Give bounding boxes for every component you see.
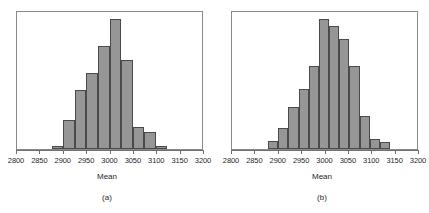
x-axis-tick [395, 150, 396, 154]
x-axis-tick [203, 150, 204, 154]
x-tick-label: 2850 [246, 156, 262, 166]
histogram-bar [63, 120, 75, 149]
x-tick-label: 2800 [223, 156, 239, 166]
histogram-bar [299, 89, 309, 149]
panel-caption-a: (a) [0, 193, 214, 203]
x-axis-tick [180, 150, 181, 154]
figure-two-histograms: 280028502900295030003050310031503200 Mea… [0, 0, 429, 213]
x-tick-label: 3000 [101, 156, 117, 166]
x-tick-label: 3200 [195, 156, 211, 166]
x-axis-tick [156, 150, 157, 154]
x-tick-label: 2900 [55, 156, 71, 166]
x-tick-label: 3050 [340, 156, 356, 166]
x-axis-tick [371, 150, 372, 154]
panel-a: 280028502900295030003050310031503200 Mea… [0, 0, 214, 213]
histogram-bar [309, 66, 319, 150]
x-tick-label: 3050 [125, 156, 141, 166]
x-axis-title-a: Mean [0, 172, 214, 182]
histogram-bars-a [17, 12, 202, 149]
histogram-bar [319, 19, 329, 149]
histogram-bars-b [232, 12, 417, 149]
x-axis-tick [278, 150, 279, 154]
histogram-bar [144, 132, 156, 149]
x-tick-label: 2950 [293, 156, 309, 166]
x-axis-tick [325, 150, 326, 154]
histogram-bar [288, 107, 298, 149]
histogram-bar [98, 46, 110, 149]
x-tick-label: 3000 [316, 156, 332, 166]
x-axis-tick [133, 150, 134, 154]
x-tick-label: 2800 [8, 156, 24, 166]
histogram-bar [133, 127, 145, 149]
x-axis-tick [39, 150, 40, 154]
x-tick-label: 3200 [410, 156, 426, 166]
histogram-bar [339, 39, 349, 149]
histogram-bar [329, 26, 339, 149]
x-axis-b [231, 150, 418, 151]
x-tick-labels-b: 280028502900295030003050310031503200 [215, 156, 429, 168]
x-axis-tick [348, 150, 349, 154]
histogram-bar [349, 66, 359, 150]
x-tick-label: 3150 [386, 156, 402, 166]
histogram-bar [86, 73, 98, 149]
x-axis-tick [86, 150, 87, 154]
x-axis-a [16, 150, 203, 151]
histogram-bar [110, 19, 122, 149]
x-tick-label: 2850 [31, 156, 47, 166]
x-tick-label: 3150 [171, 156, 187, 166]
x-axis-title-b: Mean [215, 172, 429, 182]
histogram-bar [52, 146, 64, 149]
histogram-bar [360, 116, 370, 149]
x-axis-tick [254, 150, 255, 154]
histogram-bar [370, 139, 380, 149]
x-axis-tick [16, 150, 17, 154]
histogram-bar [121, 60, 133, 149]
panel-b: 280028502900295030003050310031503200 Mea… [215, 0, 429, 213]
x-tick-label: 3100 [148, 156, 164, 166]
histogram-bar [380, 142, 390, 149]
x-axis-tick [63, 150, 64, 154]
plot-frame-b [231, 11, 418, 150]
histogram-bar [75, 90, 87, 149]
x-axis-tick [418, 150, 419, 154]
x-tick-label: 2900 [270, 156, 286, 166]
x-tick-labels-a: 280028502900295030003050310031503200 [0, 156, 214, 168]
x-axis-tick [231, 150, 232, 154]
x-axis-tick [110, 150, 111, 154]
histogram-bar [156, 146, 168, 149]
plot-frame-a [16, 11, 203, 150]
x-tick-label: 2950 [78, 156, 94, 166]
x-axis-tick [301, 150, 302, 154]
histogram-bar [278, 128, 288, 149]
panel-caption-b: (b) [215, 193, 429, 203]
x-tick-label: 3100 [363, 156, 379, 166]
histogram-bar [268, 141, 278, 149]
